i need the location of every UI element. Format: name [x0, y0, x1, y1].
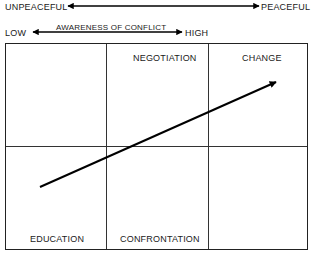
progression-arrow: [0, 0, 311, 256]
